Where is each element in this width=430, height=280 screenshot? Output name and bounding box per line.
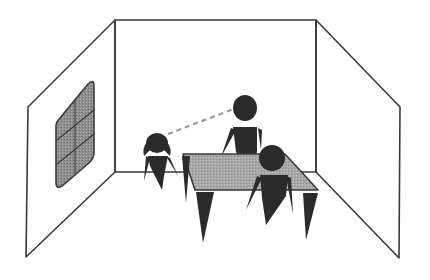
table-leg-front-left xyxy=(196,192,214,243)
adult-front-body xyxy=(260,175,288,225)
table-leg-front-right xyxy=(303,193,318,240)
child-arm-right xyxy=(166,156,178,176)
adult-front-head xyxy=(259,145,285,171)
adult-standing-arm-right xyxy=(258,128,262,150)
right-wall xyxy=(316,20,400,258)
child-body xyxy=(148,156,168,190)
figure-child xyxy=(143,133,178,190)
gaze-line xyxy=(168,108,236,134)
window xyxy=(56,81,94,187)
table-leg-back-left xyxy=(182,156,190,203)
adult-standing-arm-left xyxy=(221,128,236,157)
table-top xyxy=(183,154,318,190)
adult-standing-head xyxy=(233,95,257,121)
child-arm-left xyxy=(144,156,150,181)
room-scene xyxy=(0,0,430,280)
